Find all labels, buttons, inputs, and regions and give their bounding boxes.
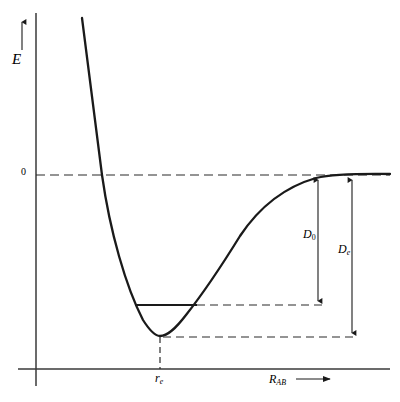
d0-main: D [303, 227, 312, 241]
morse-potential-curve [82, 18, 390, 336]
de-subscript: e [347, 248, 351, 257]
d0-subscript: 0 [312, 233, 316, 242]
plot-canvas [0, 0, 400, 402]
de-label: De [338, 243, 350, 257]
rab-subscript: AB [276, 378, 286, 387]
y-axis-label: E [12, 52, 21, 67]
re-subscript: e [160, 377, 164, 386]
potential-energy-curve-figure: E 0 re RAB D0 De [0, 0, 400, 402]
de-main: D [338, 242, 347, 256]
x-axis-label: RAB [269, 373, 286, 387]
zero-tick-label: 0 [21, 167, 26, 177]
equilibrium-distance-label: re [155, 372, 163, 386]
d0-label: D0 [303, 228, 316, 242]
